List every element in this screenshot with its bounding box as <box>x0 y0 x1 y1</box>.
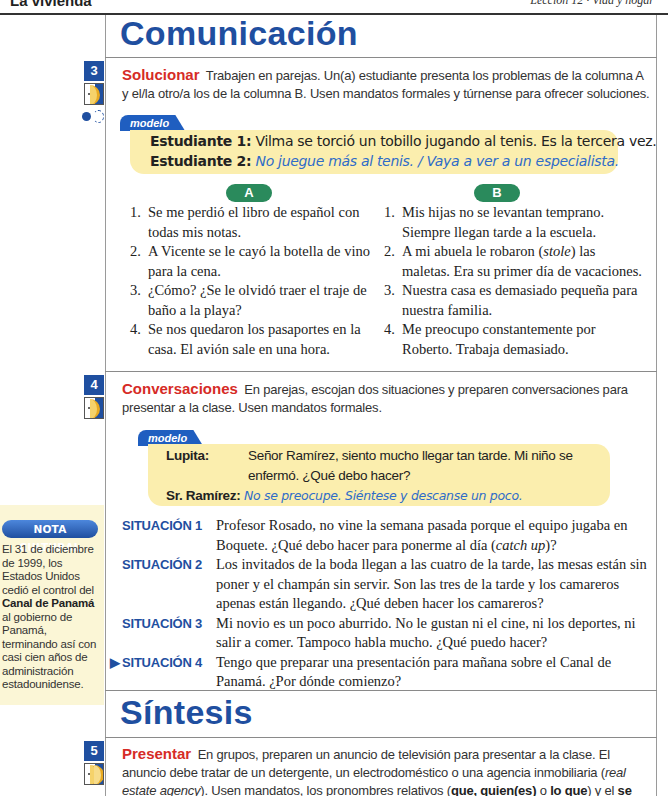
activity-5-instructions: Presentar En grupos, preparen un anuncio… <box>122 745 652 796</box>
modelo-label: modelo <box>120 115 185 131</box>
list-item: 1.Se me perdió el libro de español con t… <box>130 203 370 242</box>
situacion-4: ▶SITUACIÓN 4Tengo que preparar una prese… <box>122 653 652 692</box>
nota-cultural-text: El 31 de diciembre de 1999, los Estados … <box>2 543 102 692</box>
modelo-line-1: Lupita:Señor Ramírez, siento mucho llega… <box>166 448 573 463</box>
situacion-3: SITUACIÓN 3Mi novio es un poco aburrido.… <box>122 614 652 653</box>
column-a-list: 1.Se me perdió el libro de español con t… <box>130 203 370 359</box>
activity-keyword: Conversaciones <box>122 380 238 397</box>
list-item: 4.Me preocupo constantemente por Roberto… <box>384 320 644 359</box>
list-item: 1.Mis hijas no se levantan temprano. Sie… <box>384 203 644 242</box>
activity-4-instructions: Conversaciones En parejas, escojan dos s… <box>122 380 652 417</box>
section-title-sintesis: Síntesis <box>120 693 253 732</box>
mouse-online-icon[interactable] <box>82 110 108 124</box>
activity-number-5: 5 <box>84 741 104 761</box>
chapter-title: La vivienda <box>10 0 92 9</box>
column-b-list: 1.Mis hijas no se levantan temprano. Sie… <box>384 203 644 359</box>
activity-keyword: Solucionar <box>122 66 200 83</box>
section-divider <box>105 57 657 58</box>
arrow-marker-icon: ▶ <box>110 653 120 673</box>
activity-divider <box>105 371 657 372</box>
activity-number-3: 3 <box>84 61 104 81</box>
activity-number-4: 4 <box>84 375 104 395</box>
column-a-badge: A <box>226 184 272 202</box>
page-header: La vivienda Lección 12 · Vida y hogar <box>0 0 668 12</box>
lesson-title: Lección 12 · Vida y hogar <box>530 0 654 8</box>
list-item: 2.A mi abuela le robaron (stole) las mal… <box>384 242 644 281</box>
group-work-icon <box>84 763 104 785</box>
section-divider <box>105 737 657 738</box>
nota-cultural-badge: NOTA CULTURAL <box>2 520 98 538</box>
pair-work-icon <box>84 83 104 105</box>
modelo-line-1-cont: enfermó. ¿Qué debo hacer? <box>248 468 410 483</box>
list-item: 2.A Vicente se le cayó la botella de vin… <box>130 242 370 281</box>
list-item: 3.¿Cómo? ¿Se le olvidó traer el traje de… <box>130 281 370 320</box>
modelo-line-1: Estudiante 1: Vilma se torció un tobillo… <box>150 133 656 149</box>
list-item: 3.Nuestra casa es demasiado pequeña para… <box>384 281 644 320</box>
activity-3-instructions: Solucionar Trabajen en parejas. Un(a) es… <box>122 66 652 103</box>
column-b-badge: B <box>474 184 520 202</box>
content-border-left <box>105 15 106 796</box>
situaciones-list: SITUACIÓN 1Profesor Rosado, no vine la s… <box>122 516 652 692</box>
section-divider <box>105 690 657 691</box>
situacion-1: SITUACIÓN 1Profesor Rosado, no vine la s… <box>122 516 652 555</box>
activity-keyword: Presentar <box>122 745 191 762</box>
pair-work-icon <box>84 397 104 419</box>
modelo-line-2: Sr. Ramírez: No se preocupe. Siéntese y … <box>166 488 522 503</box>
situacion-2: SITUACIÓN 2Los invitados de la boda lleg… <box>122 555 652 614</box>
modelo-line-2: Estudiante 2: No juegue más al tenis. / … <box>150 153 619 169</box>
list-item: 4.Se nos quedaron los pasaportes en la c… <box>130 320 370 359</box>
section-title-comunicacion: Comunicación <box>120 14 358 53</box>
